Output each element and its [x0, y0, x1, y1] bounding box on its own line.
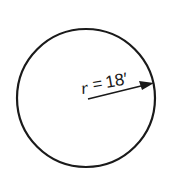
- arrowhead-icon: [139, 81, 154, 90]
- radius-variable: r: [79, 77, 90, 98]
- radius-value: 18′: [104, 69, 129, 92]
- equals-sign: =: [91, 74, 104, 94]
- radius-label: r = 18′: [79, 69, 129, 98]
- circle-outline: [17, 29, 155, 167]
- circle-diagram: r = 18′: [0, 0, 174, 178]
